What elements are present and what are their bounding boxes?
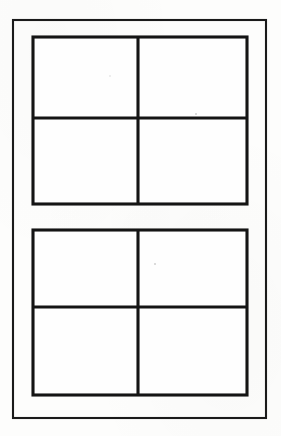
window-drawing-svg — [0, 0, 281, 436]
drawing-canvas — [0, 0, 281, 436]
scan-speck — [109, 75, 110, 76]
upper-sash — [33, 37, 247, 204]
upper-sash-glass — [33, 37, 247, 204]
scan-speck — [195, 113, 197, 115]
lower-sash — [33, 230, 247, 395]
lower-sash-glass — [33, 230, 247, 395]
scan-speck — [154, 263, 156, 265]
window-diagram — [0, 0, 281, 436]
